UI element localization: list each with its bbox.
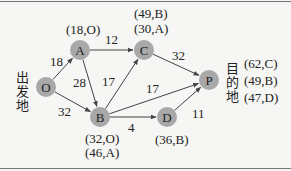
- edge-weight-CP: 32: [172, 48, 185, 63]
- destination-label-2: 地: [226, 89, 239, 104]
- annotation-D-0: (36,B): [155, 132, 189, 147]
- edge-weight-AC: 12: [105, 32, 118, 47]
- destination-label-1: 的: [226, 75, 239, 90]
- svg-text:C: C: [140, 43, 149, 58]
- origin-label-0: 出: [16, 70, 29, 85]
- svg-text:D: D: [162, 110, 171, 125]
- annotation-P-2: (47,D): [244, 90, 278, 105]
- network-diagram: OACBDP 18 32 12 28 17 17 4 32 11 (18,O) …: [0, 0, 291, 171]
- annotation-B-0: (32,O): [85, 131, 119, 146]
- origin-label-2: 地: [16, 98, 29, 113]
- annotation-C-1: (30,A): [134, 21, 168, 36]
- edge-weight-OB: 32: [58, 104, 71, 119]
- node-D: D: [157, 107, 177, 127]
- svg-text:P: P: [205, 73, 212, 88]
- svg-text:O: O: [41, 80, 50, 95]
- edge-weight-OA: 18: [50, 54, 63, 69]
- edge-weight-DP: 11: [192, 106, 205, 121]
- svg-text:B: B: [96, 110, 105, 125]
- annotation-B-1: (46,A): [85, 145, 119, 160]
- annotation-A-0: (18,O): [66, 22, 100, 37]
- annotation-P-1: (49,B): [244, 73, 278, 88]
- edge-weight-BP: 17: [146, 81, 160, 96]
- edge-weight-BC: 17: [102, 74, 116, 89]
- edge-weight-AB: 28: [73, 75, 86, 90]
- node-B: B: [90, 107, 110, 127]
- destination-label-0: 目: [226, 61, 239, 76]
- node-O: O: [36, 77, 56, 97]
- node-C: C: [134, 40, 154, 60]
- annotation-P-0: (62,C): [244, 56, 278, 71]
- annotation-C-0: (49,B): [134, 6, 168, 21]
- origin-label-1: 发: [16, 84, 29, 99]
- node-A: A: [70, 40, 90, 60]
- svg-text:A: A: [75, 43, 85, 58]
- node-P: P: [199, 70, 219, 90]
- edge-weight-BD: 4: [128, 120, 135, 135]
